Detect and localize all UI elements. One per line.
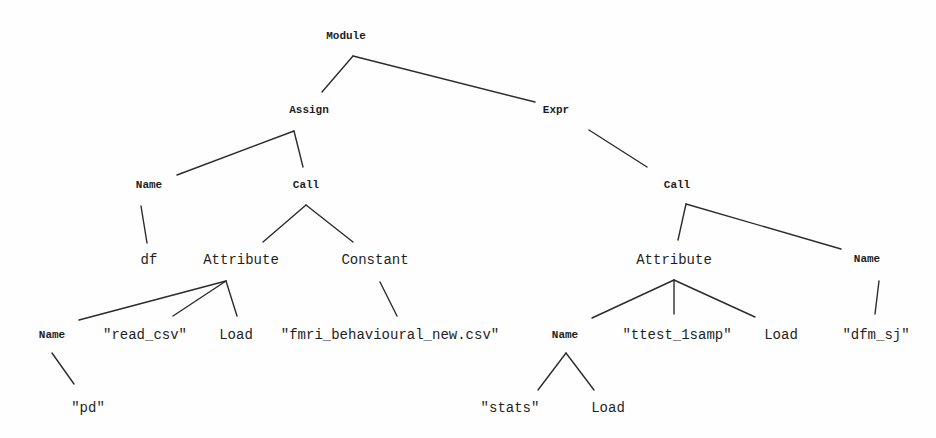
node-expr: Expr — [543, 105, 569, 116]
edge-constant-to-csv_file — [380, 282, 397, 316]
edge-call_right-to-attribute_right — [678, 204, 686, 240]
edge-assign-to-name_df — [177, 131, 294, 175]
edge-name_dfm-to-dfm_sj — [875, 281, 879, 314]
edge-name_df-to-df — [141, 206, 147, 243]
edge-expr-to-call_right — [589, 130, 647, 167]
edge-call_right-to-name_dfm — [686, 204, 841, 249]
node-call-right: Call — [664, 180, 690, 191]
node-read-csv: "read_csv" — [103, 328, 187, 342]
node-dfm-sj: "dfm_sj" — [842, 328, 909, 342]
node-constant: Constant — [341, 253, 408, 267]
node-attribute-left: Attribute — [203, 253, 279, 267]
node-load-left: Load — [219, 328, 253, 342]
edge-assign-to-call_left — [294, 131, 303, 167]
node-csv-file: "fmri_behavioural_new.csv" — [281, 328, 499, 342]
node-load-mid: Load — [764, 328, 798, 342]
edge-name_pd-to-pd — [52, 353, 74, 384]
edge-call_left-to-constant — [306, 205, 353, 242]
node-name-df: Name — [136, 180, 162, 191]
edge-module-to-assign — [322, 56, 353, 92]
ast-diagram: ModuleAssignExprNameCallCalldfAttributeC… — [0, 0, 936, 438]
edge-name_stats-to-load_right — [566, 353, 594, 390]
edge-attribute_left-to-read_csv — [173, 281, 226, 316]
tree-edges — [0, 0, 936, 438]
edge-attribute_left-to-load_left — [226, 281, 237, 316]
edge-call_left-to-attribute_left — [263, 205, 306, 242]
node-name-dfm: Name — [854, 254, 880, 265]
edge-attribute_right-to-load_mid — [674, 280, 755, 317]
node-assign: Assign — [289, 105, 329, 116]
edge-module-to-expr — [353, 56, 535, 102]
edge-name_stats-to-stats — [538, 353, 566, 390]
edge-attribute_right-to-name_stats — [592, 280, 674, 318]
node-module: Module — [326, 31, 366, 42]
node-name-pd: Name — [39, 330, 65, 341]
node-ttest-1samp: "ttest_1samp" — [622, 328, 731, 342]
node-load-right: Load — [591, 401, 625, 415]
edge-attribute_left-to-name_pd — [79, 281, 226, 320]
node-df: df — [141, 253, 158, 267]
node-call-left: Call — [293, 180, 319, 191]
node-stats: "stats" — [481, 401, 540, 415]
node-name-stats: Name — [552, 330, 578, 341]
node-pd: "pd" — [71, 401, 105, 415]
node-attribute-right: Attribute — [636, 253, 712, 267]
